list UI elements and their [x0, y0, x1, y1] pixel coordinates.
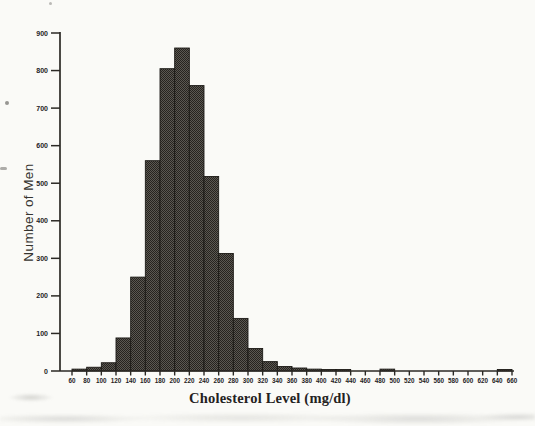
x-tick-label: 560	[433, 377, 444, 384]
histogram-bar	[160, 69, 175, 371]
histogram-bar	[233, 318, 248, 371]
scan-speck	[0, 167, 7, 170]
y-tick-label: 500	[36, 180, 48, 187]
x-tick-label: 600	[463, 377, 474, 384]
x-tick-label: 280	[228, 377, 239, 384]
x-tick-label: 80	[83, 377, 91, 384]
x-tick-label: 220	[184, 377, 195, 384]
x-tick-label: 260	[213, 377, 224, 384]
x-tick-label: 640	[492, 377, 503, 384]
x-tick-label: 620	[477, 377, 488, 384]
histogram-bar	[219, 253, 234, 371]
x-tick-label: 200	[169, 377, 180, 384]
x-tick-label: 160	[140, 377, 151, 384]
x-tick-label: 460	[360, 377, 371, 384]
y-tick-label: 800	[36, 67, 48, 74]
histogram-bar	[248, 348, 263, 371]
x-axis-title: Cholesterol Level (mg/dl)	[145, 390, 395, 407]
scan-speck	[49, 2, 52, 5]
y-axis-title: Number of Men	[21, 133, 36, 293]
x-tick-label: 140	[125, 377, 136, 384]
y-tick-label: 300	[36, 255, 48, 262]
x-tick-label: 440	[345, 377, 356, 384]
scan-speck	[5, 101, 9, 105]
y-tick-label: 200	[36, 292, 48, 299]
x-tick-label: 520	[404, 377, 415, 384]
x-tick-label: 100	[96, 377, 107, 384]
x-tick-label: 540	[419, 377, 430, 384]
x-tick-label: 380	[301, 377, 312, 384]
y-tick-label: 900	[36, 30, 48, 37]
x-tick-label: 400	[316, 377, 327, 384]
histogram-bar	[116, 338, 131, 371]
histogram-bar	[204, 176, 219, 371]
x-tick-label: 420	[331, 377, 342, 384]
scan-smudge-bottom	[0, 408, 535, 426]
y-tick-label: 0	[44, 368, 48, 375]
histogram-bar	[175, 48, 190, 371]
histogram-bar	[101, 363, 116, 371]
x-tick-label: 340	[272, 377, 283, 384]
y-tick-label: 100	[36, 330, 48, 337]
x-tick-label: 500	[389, 377, 400, 384]
y-tick-label: 400	[36, 217, 48, 224]
scan-smudge-left	[8, 393, 54, 402]
x-tick-label: 180	[155, 377, 166, 384]
scanned-histogram-page: 0100200300400500600700800900608010012014…	[0, 0, 535, 426]
x-tick-label: 120	[111, 377, 122, 384]
x-tick-label: 60	[68, 377, 76, 384]
x-tick-label: 660	[507, 377, 518, 384]
histogram-chart: 0100200300400500600700800900608010012014…	[0, 0, 535, 426]
x-tick-label: 240	[199, 377, 210, 384]
histogram-bar	[131, 277, 146, 371]
histogram-bar	[145, 161, 160, 371]
x-tick-label: 480	[375, 377, 386, 384]
histogram-bar	[263, 362, 278, 371]
x-tick-label: 360	[287, 377, 298, 384]
x-tick-label: 300	[243, 377, 254, 384]
y-tick-label: 700	[36, 105, 48, 112]
histogram-bar	[189, 86, 204, 371]
y-tick-label: 600	[36, 142, 48, 149]
x-tick-label: 320	[257, 377, 268, 384]
x-tick-label: 580	[448, 377, 459, 384]
